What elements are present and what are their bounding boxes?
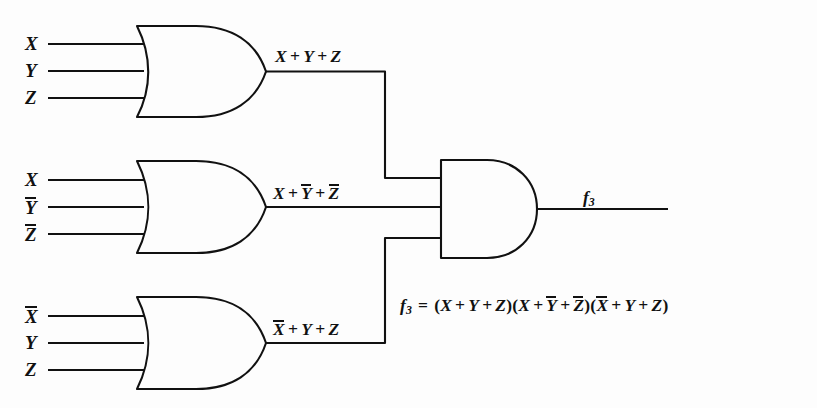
term-1-overbar: X <box>273 320 285 339</box>
input-label-z-gate3: Z <box>25 360 37 379</box>
input-glyph-overbar: X <box>25 306 38 326</box>
plus-operator: + <box>608 295 624 315</box>
plus-operator: + <box>452 295 468 315</box>
figure-canvas: X Y Z X Y Z X Y Z X+Y+Z X+Y+Z X+Y+Z f3 f… <box>0 0 817 408</box>
term-2: Y <box>303 46 314 66</box>
input-glyph-overbar: Z <box>25 224 37 244</box>
t3-a-overbar: X <box>596 296 608 315</box>
plus-operator: + <box>285 319 301 339</box>
t1-b: Y <box>468 295 479 315</box>
input-label-z-gate1: Z <box>25 88 37 107</box>
paren-close-3: ) <box>662 295 668 315</box>
input-glyph: X <box>25 33 38 54</box>
input-glyph: Y <box>25 332 37 353</box>
or-gate-2-output-label: X+Y+Z <box>273 184 340 203</box>
input-label-y-gate3: Y <box>25 333 37 352</box>
wire-or1-to-and <box>266 72 442 179</box>
plus-operator: + <box>312 319 328 339</box>
plus-operator: + <box>287 46 303 66</box>
plus-operator: + <box>557 295 573 315</box>
term-3-overbar: Z <box>329 184 340 203</box>
input-glyph: X <box>25 169 38 190</box>
input-label-y-gate1: Y <box>25 61 37 80</box>
t2-b-overbar: Y <box>546 296 557 315</box>
plus-operator: + <box>635 295 651 315</box>
term-1: X <box>275 46 287 66</box>
term-2-overbar: Y <box>301 184 312 203</box>
input-glyph: Z <box>25 359 37 380</box>
circuit-schematic <box>0 0 817 408</box>
t1-c: Z <box>495 295 506 315</box>
input-label-x-gate2: X <box>25 170 38 189</box>
input-label-ybar-gate2: Y <box>25 197 37 217</box>
input-glyph: Y <box>25 60 37 81</box>
input-glyph: Z <box>25 87 37 108</box>
or-gate-3-shape <box>137 297 266 389</box>
equals-sign: = <box>412 295 434 315</box>
term-2: Y <box>301 319 312 339</box>
or-gate-1-output-label: X+Y+Z <box>275 48 342 66</box>
plus-operator: + <box>285 183 301 203</box>
plus-operator: + <box>479 295 495 315</box>
and-gate-shape <box>441 160 537 258</box>
or-gate-3-output-label: X+Y+Z <box>273 320 340 339</box>
plus-operator: + <box>530 295 546 315</box>
term-3: Z <box>331 46 342 66</box>
output-subscript: 3 <box>589 195 595 209</box>
or-gate-1-shape <box>137 26 266 117</box>
plus-operator: + <box>312 183 328 203</box>
plus-operator: + <box>314 46 330 66</box>
input-glyph-overbar: Y <box>25 197 37 217</box>
input-label-xbar-gate3: X <box>25 306 38 326</box>
t1-a: X <box>440 295 452 315</box>
input-label-zbar-gate2: Z <box>25 224 37 244</box>
output-label-f3: f3 <box>583 189 595 209</box>
t3-c: Z <box>652 295 663 315</box>
term-1: X <box>273 183 285 203</box>
t2-a: X <box>518 295 530 315</box>
t3-b: Y <box>624 295 635 315</box>
equation-f3: f3=(X+Y+Z)(X+Y+Z)(X+Y+Z) <box>400 296 668 317</box>
input-label-x-gate1: X <box>25 34 38 53</box>
t2-c-overbar: Z <box>573 296 584 315</box>
term-3: Z <box>329 319 340 339</box>
or-gate-2-shape <box>137 161 266 253</box>
